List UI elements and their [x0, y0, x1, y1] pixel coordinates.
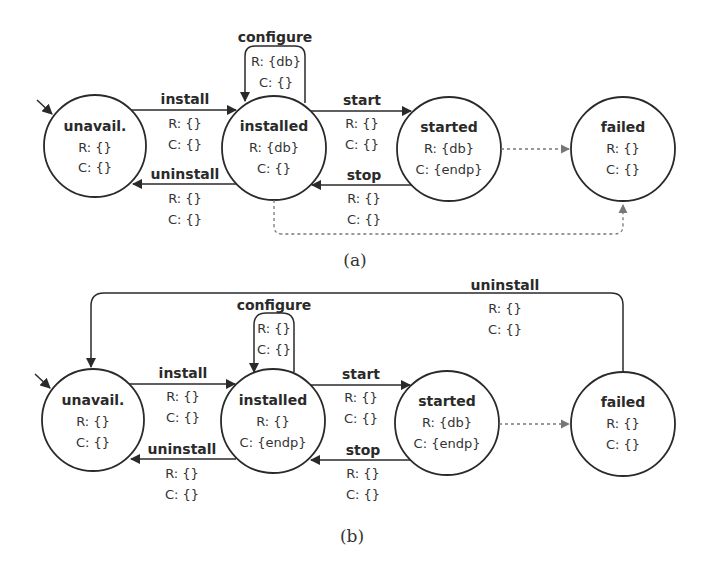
transition-label: start	[342, 366, 380, 382]
transition-label: uninstall	[148, 441, 217, 457]
transition-label: configure	[237, 297, 312, 313]
transition-requires: R: {}	[344, 390, 378, 405]
state-capabilities: C: {}	[76, 435, 110, 450]
transition-capabilities: C: {}	[166, 410, 200, 425]
transition-capabilities: C: {}	[345, 137, 379, 152]
state-capabilities: C: {}	[78, 160, 112, 175]
state-unavail: unavail. R: {} C: {}	[44, 95, 146, 197]
transition-capabilities: C: {}	[347, 212, 381, 227]
state-name: failed	[601, 119, 646, 135]
state-failed: failed R: {} C: {}	[571, 97, 675, 201]
transition-uninstall: uninstall R: {} C: {}	[133, 166, 237, 227]
transition-uninstall-failed: uninstall R: {} C: {}	[91, 277, 623, 372]
diagram-b: unavail. R: {} C: {} installed R: {} C: …	[35, 277, 675, 546]
transition-label: install	[159, 365, 208, 381]
transition-requires: R: {}	[168, 116, 202, 131]
state-capabilities: C: {endp}	[414, 436, 481, 451]
state-name: unavail.	[62, 392, 125, 408]
transition-label: stop	[347, 167, 382, 183]
initial-state-arrow	[35, 374, 50, 388]
transition-capabilities: C: {}	[257, 342, 291, 357]
state-started: started R: {db} C: {endp}	[397, 97, 501, 201]
state-requires: R: {}	[256, 414, 290, 429]
state-capabilities: C: {endp}	[416, 162, 483, 177]
transition-capabilities: C: {}	[165, 487, 199, 502]
transition-label: configure	[238, 29, 313, 45]
transition-requires: R: {}	[257, 321, 291, 336]
transition-uninstall: uninstall R: {} C: {}	[131, 441, 236, 502]
transition-stop: stop R: {} C: {}	[312, 167, 412, 227]
transition-configure: configure R: {} C: {}	[237, 297, 312, 372]
transition-capabilities: C: {}	[488, 322, 522, 337]
state-name: installed	[240, 118, 308, 134]
state-requires: R: {}	[76, 414, 110, 429]
initial-state-arrow	[37, 100, 52, 114]
transition-requires: R: {}	[346, 466, 380, 481]
caption-b: (b)	[340, 526, 364, 546]
state-capabilities: C: {endp}	[240, 435, 307, 450]
state-requires: R: {}	[606, 141, 640, 156]
state-requires: R: {db}	[249, 140, 299, 155]
transition-install: install R: {} C: {}	[129, 365, 235, 425]
transition-requires: R: {db}	[251, 54, 301, 69]
transition-capabilities: C: {}	[259, 75, 293, 90]
diagram-a: unavail. R: {} C: {} installed R: {db} C…	[37, 29, 675, 270]
state-name: installed	[239, 392, 307, 408]
transition-capabilities: C: {}	[346, 487, 380, 502]
transition-requires: R: {}	[345, 116, 379, 131]
state-requires: R: {db}	[422, 415, 472, 430]
transition-label: start	[343, 92, 381, 108]
state-name: unavail.	[64, 118, 127, 134]
transition-capabilities: C: {}	[344, 411, 378, 426]
state-capabilities: C: {}	[606, 162, 640, 177]
state-failed: failed R: {} C: {}	[571, 372, 675, 476]
state-requires: R: {db}	[424, 141, 474, 156]
transition-label: install	[161, 91, 210, 107]
transition-stop: stop R: {} C: {}	[311, 442, 411, 502]
state-capabilities: C: {}	[257, 161, 291, 176]
transition-configure: configure R: {db} C: {}	[238, 29, 313, 103]
transition-requires: R: {}	[166, 389, 200, 404]
state-diagram-canvas: unavail. R: {} C: {} installed R: {db} C…	[0, 0, 710, 572]
transition-capabilities: C: {}	[168, 137, 202, 152]
transition-label: uninstall	[471, 277, 540, 293]
state-capabilities: C: {}	[606, 437, 640, 452]
transition-requires: R: {}	[488, 301, 522, 316]
transition-fail-installed	[274, 200, 623, 234]
state-installed: installed R: {db} C: {}	[222, 96, 326, 200]
transition-requires: R: {}	[165, 466, 199, 481]
state-unavail: unavail. R: {} C: {}	[42, 369, 144, 471]
transition-label: uninstall	[151, 166, 220, 182]
state-installed: installed R: {} C: {endp}	[221, 369, 325, 473]
state-name: started	[418, 393, 476, 409]
state-requires: R: {}	[78, 140, 112, 155]
state-name: failed	[601, 394, 646, 410]
caption-a: (a)	[343, 250, 366, 270]
state-name: started	[420, 119, 478, 135]
transition-capabilities: C: {}	[168, 212, 202, 227]
transition-requires: R: {}	[347, 191, 381, 206]
state-requires: R: {}	[606, 416, 640, 431]
transition-label: stop	[346, 442, 381, 458]
transition-requires: R: {}	[168, 191, 202, 206]
